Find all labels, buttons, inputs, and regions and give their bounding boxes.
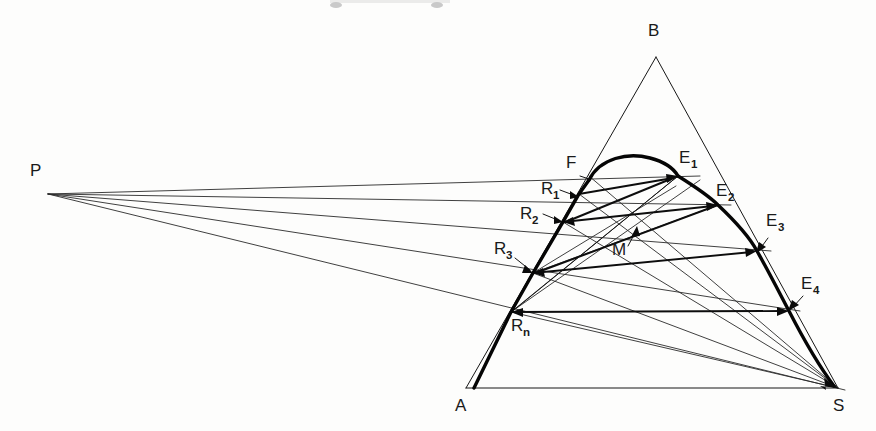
label-e3-sub: 3 (778, 221, 784, 233)
ray-diagram-svg: P A B S F M R 1 R 2 R 3 R n E 1 E (0, 0, 876, 431)
label-rn-sub: n (523, 326, 530, 338)
label-r2: R 2 (520, 204, 538, 226)
ray-s-to-rn (511, 312, 838, 388)
ray-p-to-r3 (48, 194, 800, 311)
label-e3-base: E (766, 211, 778, 230)
label-e2: E 2 (716, 181, 734, 203)
label-m: M (612, 240, 626, 259)
chord-e1-rn (514, 176, 678, 310)
figure-canvas: P A B S F M R 1 R 2 R 3 R n E 1 E (0, 0, 876, 431)
label-s: S (833, 396, 845, 415)
triangle-side-bs (656, 57, 838, 388)
label-e1: E 1 (679, 148, 698, 170)
label-e4-sub: 4 (813, 284, 820, 296)
label-r2-base: R (520, 204, 532, 223)
label-r3: R 3 (494, 239, 512, 261)
rays-to-apex-s (511, 176, 838, 388)
vertex-labels: P A B S F M (30, 21, 845, 415)
label-e1-sub: 1 (691, 158, 698, 170)
label-e1-base: E (679, 148, 691, 167)
label-e4-base: E (801, 274, 813, 293)
label-r2-sub: 2 (532, 214, 538, 226)
label-r3-sub: 3 (506, 249, 512, 261)
label-e2-sub: 2 (728, 191, 734, 203)
e-point-labels: E 1 E 2 E 3 E 4 (679, 148, 820, 296)
curve-crown (589, 156, 678, 180)
label-e4: E 4 (801, 274, 820, 296)
label-a: A (455, 396, 467, 415)
ray-s-to-r3 (533, 273, 838, 388)
label-rn-base: R (511, 316, 523, 335)
label-e3: E 3 (766, 211, 784, 233)
label-r1: R 1 (541, 179, 560, 201)
label-rn: R n (511, 316, 530, 338)
label-e2-base: E (716, 181, 728, 200)
scan-artifacts (330, 0, 450, 8)
label-r3-base: R (494, 239, 506, 258)
r-point-labels: R 1 R 2 R 3 R n (494, 179, 560, 338)
ray-s-to-r1 (579, 194, 838, 388)
ray-p-to-r2 (48, 194, 771, 251)
label-f: F (566, 153, 577, 172)
label-r1-sub: 1 (553, 189, 560, 201)
label-p: P (30, 161, 42, 180)
chord-rn-e4 (511, 311, 784, 312)
label-r1-base: R (541, 179, 553, 198)
rays-from-p (48, 176, 845, 390)
ray-p-to-f (48, 176, 700, 194)
label-b: B (648, 21, 660, 40)
